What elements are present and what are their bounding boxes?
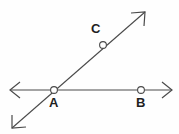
point-marker-a	[51, 87, 58, 94]
diagonal-line	[12, 12, 145, 128]
point-label-a: A	[49, 96, 58, 109]
point-marker-b	[138, 87, 145, 94]
point-marker-c	[100, 42, 107, 49]
point-label-c: C	[91, 22, 100, 35]
point-label-b: B	[136, 96, 145, 109]
figure-canvas	[0, 0, 179, 134]
geometry-figure: A B C	[0, 0, 179, 134]
